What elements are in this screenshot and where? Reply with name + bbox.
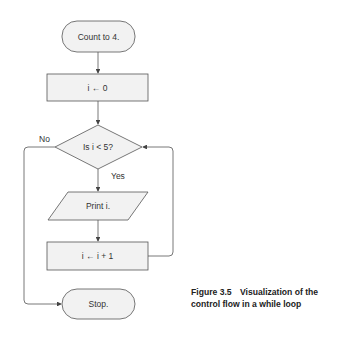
- yes-label: Yes: [111, 171, 125, 181]
- end-terminal: Stop.: [62, 289, 135, 319]
- figure-number: Figure 3.5: [191, 287, 232, 297]
- output-label: Print i.: [86, 201, 110, 211]
- increment-label: i ← i + 1: [82, 251, 114, 261]
- output-parallelogram: Print i.: [48, 192, 148, 220]
- start-terminal: Count to 4.: [62, 21, 135, 52]
- decision-diamond: Is i < 5?: [55, 125, 142, 169]
- start-label: Count to 4.: [78, 32, 120, 42]
- decision-label: Is i < 5?: [83, 142, 113, 152]
- end-label: Stop.: [89, 299, 109, 309]
- init-label: i ← 0: [88, 83, 108, 93]
- init-process: i ← 0: [47, 74, 148, 101]
- arrow-loop-back: [143, 147, 173, 256]
- figure-caption: Figure 3.5 Visualization of the control …: [191, 286, 339, 310]
- arrow-no-to-stop: [24, 147, 61, 304]
- increment-process: i ← i + 1: [47, 242, 148, 270]
- no-label: No: [39, 134, 50, 144]
